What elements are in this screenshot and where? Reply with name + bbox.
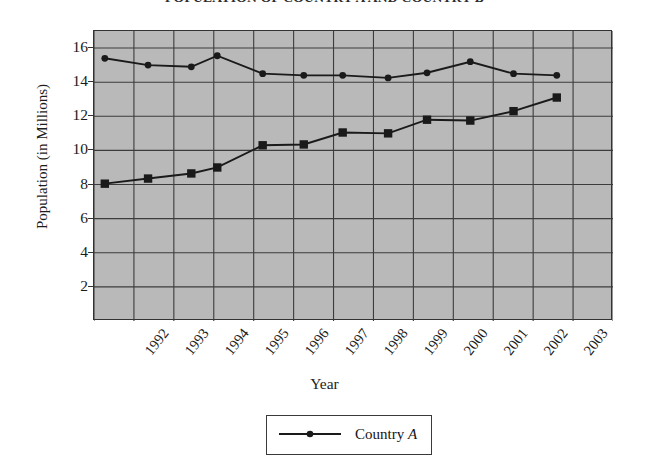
x-tick-label: 1996 — [302, 326, 331, 358]
y-tick-label: 4 — [60, 244, 88, 260]
x-tick-label: 1995 — [262, 326, 291, 358]
x-tick-label: 1994 — [222, 326, 251, 358]
data-point-circle — [214, 52, 221, 59]
x-tick-label: 2002 — [541, 326, 570, 358]
x-tick-label: 1998 — [382, 326, 411, 358]
chart-legend: Country A — [266, 415, 432, 455]
y-tick-label: 12 — [60, 107, 88, 123]
data-point-circle — [259, 70, 266, 77]
legend-label-suffix: A — [408, 426, 417, 442]
x-tick-label: 2001 — [501, 326, 530, 358]
data-point-square — [258, 141, 266, 149]
x-tick-label: 2003 — [581, 326, 610, 358]
y-axis-title: Population (in Millions) — [34, 32, 51, 282]
series-line-country-b — [105, 98, 557, 184]
data-point-circle — [188, 63, 195, 70]
plot-canvas — [94, 31, 613, 321]
data-point-circle — [553, 72, 560, 79]
data-point-square — [187, 169, 195, 177]
y-tick-label: 8 — [60, 176, 88, 192]
x-axis-ticks: 1992199319941995199619971998199920002001… — [93, 322, 612, 382]
data-point-square — [384, 129, 392, 137]
x-tick-label: 1993 — [182, 326, 211, 358]
legend-label-country-a: Country A — [355, 426, 417, 443]
data-point-square — [213, 163, 221, 171]
plot-area — [93, 30, 612, 320]
data-point-square — [300, 140, 308, 148]
y-axis-ticks: 161412108642 — [55, 30, 88, 320]
data-point-circle — [300, 72, 307, 79]
data-series-layer — [101, 52, 561, 188]
x-tick-label: 1992 — [142, 326, 171, 358]
y-tick-label: 2 — [60, 278, 88, 294]
data-point-circle — [424, 69, 431, 76]
data-point-circle — [101, 55, 108, 62]
x-tick-label: 1999 — [422, 326, 451, 358]
data-point-square — [466, 116, 474, 124]
data-point-square — [144, 174, 152, 182]
horizontal-gridlines — [94, 48, 613, 287]
chart-title: POPULATION OF COUNTRY A AND COUNTRY B — [0, 0, 649, 6]
data-point-circle — [510, 70, 517, 77]
data-point-square — [553, 93, 561, 101]
data-point-circle — [385, 75, 392, 82]
legend-line-icon — [277, 425, 343, 443]
data-point-circle — [339, 72, 346, 79]
data-point-circle — [145, 62, 152, 69]
data-point-square — [338, 128, 346, 136]
x-tick-label: 1997 — [342, 326, 371, 358]
y-tick-label: 16 — [60, 39, 88, 55]
x-axis-title: Year — [0, 375, 649, 393]
data-point-circle — [467, 58, 474, 65]
legend-label-prefix: Country — [355, 426, 408, 442]
data-point-square — [423, 116, 431, 124]
y-tick-label: 10 — [60, 141, 88, 157]
x-tick-label: 2000 — [461, 326, 490, 358]
y-tick-label: 14 — [60, 73, 88, 89]
y-tick-label: 6 — [60, 210, 88, 226]
data-point-square — [509, 107, 517, 115]
legend-item-country-a: Country A — [267, 422, 431, 446]
series-line-country-a — [105, 56, 557, 78]
data-point-square — [101, 179, 109, 187]
legend-marker-circle-icon — [277, 425, 343, 443]
